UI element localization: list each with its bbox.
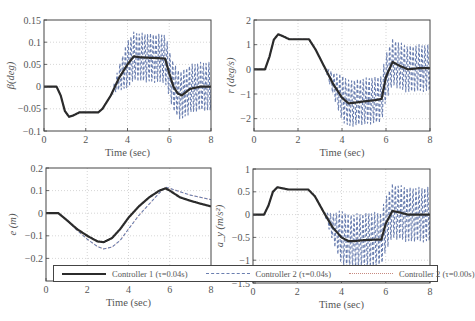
- x-tick-label: 8: [428, 286, 433, 297]
- subplot-sideslip-beta: 02468−0.1−0.0500.050.10.15Time (sec)β(de…: [5, 15, 214, 160]
- x-tick-label: 8: [209, 134, 214, 145]
- y-axis-label: r (deg/s): [225, 57, 237, 93]
- x-tick-label: 6: [384, 134, 389, 145]
- x-tick-label: 8: [428, 134, 433, 145]
- y-tick-label: −0.1: [25, 230, 43, 241]
- legend: Controller 1 (τ=0.04s) Controller 2 (τ=0…: [53, 265, 438, 282]
- y-axis-label: β(deg): [5, 61, 17, 90]
- legend-item-controller2-delay: Controller 2 (τ=0.04s): [206, 269, 332, 279]
- x-tick-label: 4: [339, 286, 344, 297]
- legend-item-controller1: Controller 1 (τ=0.04s): [62, 269, 188, 279]
- dotted-line-swatch-icon: [349, 273, 393, 274]
- y-tick-label: 0: [38, 208, 43, 219]
- y-tick-label: −2: [240, 113, 251, 124]
- x-tick-label: 6: [383, 286, 388, 297]
- y-tick-label: 0: [245, 209, 250, 220]
- x-tick-label: 2: [296, 134, 301, 145]
- subplot-yaw-rate-r: 02468−2−1012Time (sec)r (deg/s): [225, 15, 433, 160]
- x-axis-label: Time (sec): [320, 147, 365, 159]
- solid-line-swatch-icon: [62, 273, 106, 275]
- subplot-lateral-error-e: 02468−0.2−0.100.10.2Time (sec)e (m): [7, 163, 214, 310]
- y-tick-label: 0.2: [31, 163, 44, 174]
- y-tick-label: 1: [245, 164, 250, 175]
- dashed-line-swatch-icon: [206, 273, 250, 274]
- x-tick-label: 4: [340, 134, 345, 145]
- y-tick-label: 2: [246, 15, 251, 26]
- legend-item-controller2-nodelay: Controller 2 (τ=0.00s): [349, 269, 475, 279]
- y-tick-label: 0.1: [29, 37, 42, 48]
- y-tick-label: 0.15: [24, 15, 42, 26]
- series-line-2: [44, 32, 211, 119]
- y-tick-label: −0.5: [232, 232, 250, 243]
- x-axis-label: Time (sec): [105, 147, 150, 159]
- y-tick-label: −0.2: [25, 253, 43, 264]
- y-tick-label: 0.1: [31, 185, 44, 196]
- legend-label: Controller 2 (τ=0.04s): [256, 269, 332, 279]
- y-tick-label: −1: [240, 89, 251, 100]
- plot-area: [44, 32, 211, 119]
- subplot-lateral-accel-ay: 02468−1.5−1−0.500.51Time (sec)a_y (m/s²): [214, 164, 433, 312]
- legend-label: Controller 2 (τ=0.00s): [399, 269, 475, 279]
- x-tick-label: 8: [209, 284, 214, 295]
- y-axis-label: e (m): [7, 213, 19, 235]
- plot-area: [46, 187, 211, 249]
- x-axis-label: Time (sec): [106, 297, 151, 309]
- x-axis-label: Time (sec): [319, 299, 364, 311]
- x-tick-label: 2: [295, 286, 300, 297]
- y-tick-label: 0.05: [24, 59, 42, 70]
- x-tick-label: 4: [126, 284, 131, 295]
- y-tick-label: 0: [36, 81, 41, 92]
- y-tick-label: 0.5: [238, 186, 251, 197]
- x-tick-label: 0: [252, 134, 257, 145]
- plot-area: [254, 34, 430, 126]
- legend-label: Controller 1 (τ=0.04s): [112, 269, 188, 279]
- x-tick-label: 0: [251, 286, 256, 297]
- y-tick-label: −0.1: [23, 126, 41, 137]
- y-tick-label: −0.05: [18, 103, 41, 114]
- x-tick-label: 0: [42, 134, 47, 145]
- y-axis-label: a_y (m/s²): [214, 204, 226, 247]
- x-tick-label: 2: [85, 284, 90, 295]
- series-line-2: [254, 34, 430, 126]
- x-tick-label: 6: [167, 284, 172, 295]
- x-tick-label: 4: [125, 134, 130, 145]
- x-tick-label: 2: [83, 134, 88, 145]
- y-tick-label: 1: [246, 39, 251, 50]
- x-tick-label: 0: [44, 284, 49, 295]
- y-tick-label: 0: [246, 64, 251, 75]
- x-tick-label: 6: [167, 134, 172, 145]
